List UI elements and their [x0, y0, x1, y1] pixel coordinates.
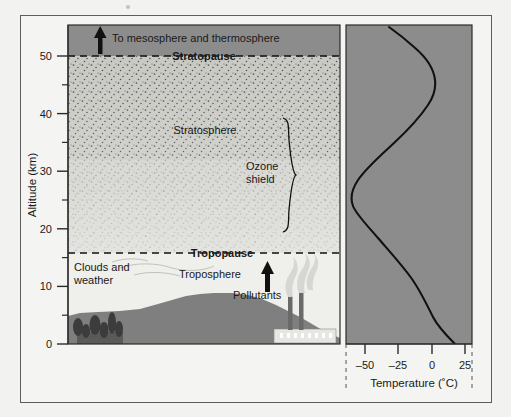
y-tick-label-30: 30 — [40, 165, 52, 177]
x-tick-label-minus50: –50 — [356, 359, 374, 371]
x-tick-label-0: 0 — [429, 359, 435, 371]
temperature-plot-background — [346, 25, 472, 344]
left-panel-atmosphere: 0 10 20 30 40 50 Altitude (km) To mesosp… — [26, 25, 340, 350]
clouds-weather-label-line2: weather — [73, 274, 113, 286]
y-tick-label-50: 50 — [40, 50, 52, 62]
troposphere-label: Troposphere — [179, 268, 241, 280]
figure-canvas: 0 10 20 30 40 50 Altitude (km) To mesosp… — [0, 0, 511, 417]
y-axis-title: Altitude (km) — [26, 153, 38, 218]
pollutants-label: Pollutants — [233, 289, 282, 301]
y-tick-label-10: 10 — [40, 280, 52, 292]
right-panel-temperature: –50 –25 0 25 Temperature (˚C) — [346, 25, 472, 390]
stratosphere-label: Stratosphere — [174, 124, 237, 136]
ozone-shield-label-line2: shield — [246, 173, 275, 185]
stratosphere-layer — [68, 56, 340, 253]
y-tick-label-20: 20 — [40, 223, 52, 235]
x-tick-label-minus25: –25 — [389, 359, 407, 371]
altitude-axis: 0 10 20 30 40 50 Altitude (km) — [26, 25, 68, 350]
y-tick-label-0: 0 — [46, 338, 52, 350]
clouds-weather-label-line1: Clouds and — [74, 261, 130, 273]
atmosphere-temperature-figure: 0 10 20 30 40 50 Altitude (km) To mesosp… — [0, 0, 511, 417]
tropopause-label: Tropopause — [191, 247, 253, 259]
ozone-shield-label-line1: Ozone — [246, 160, 278, 172]
x-tick-label-25: 25 — [459, 359, 471, 371]
stratopause-label: Stratopause — [172, 50, 236, 62]
temperature-axis: –50 –25 0 25 Temperature (˚C) — [346, 344, 472, 390]
y-tick-label-40: 40 — [40, 108, 52, 120]
x-axis-title: Temperature (˚C) — [370, 377, 458, 389]
mesosphere-label: To mesosphere and thermosphere — [112, 32, 280, 44]
